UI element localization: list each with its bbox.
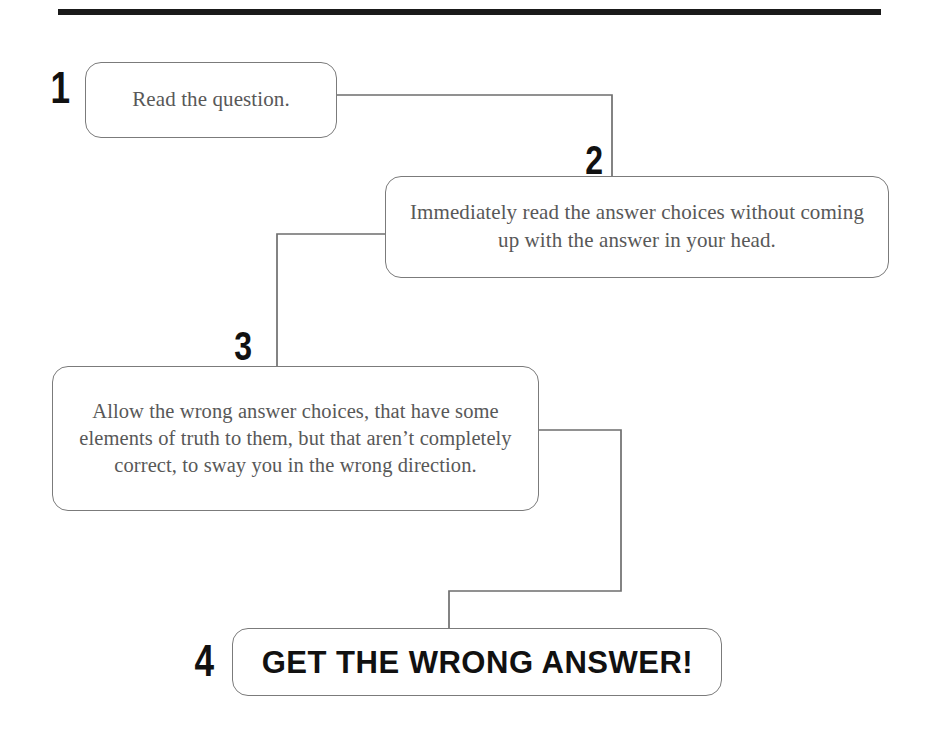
step-box-3-text: Allow the wrong answer choices, that hav… — [53, 398, 538, 479]
step-number-3: 3 — [234, 326, 252, 366]
step-box-3[interactable]: Allow the wrong answer choices, that hav… — [52, 366, 539, 511]
step-box-2-text: Immediately read the answer choices with… — [386, 199, 888, 254]
step-number-2: 2 — [585, 140, 603, 180]
step-number-1: 1 — [50, 66, 70, 110]
step-box-4[interactable]: GET THE WRONG ANSWER! — [232, 628, 722, 696]
connector-1-to-2 — [337, 95, 612, 177]
step-box-1-text: Read the question. — [118, 86, 304, 114]
connector-2-to-3 — [277, 234, 385, 367]
step-box-2[interactable]: Immediately read the answer choices with… — [385, 176, 889, 278]
step-box-4-text: GET THE WRONG ANSWER! — [248, 641, 707, 683]
step-number-4: 4 — [194, 639, 214, 683]
flowchart-page: 1 Read the question. 2 Immediately read … — [0, 0, 930, 742]
step-box-1[interactable]: Read the question. — [85, 62, 337, 138]
